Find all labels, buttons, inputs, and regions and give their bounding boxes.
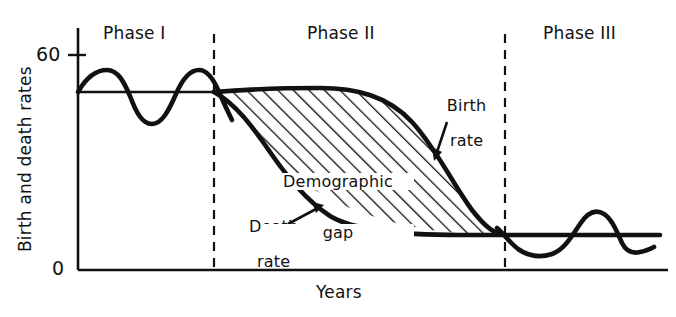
phase-label-2: Phase II <box>307 24 375 42</box>
phase-label-1: Phase I <box>103 24 166 42</box>
figure-canvas: Birth and death rates 60 0 Years Phase I… <box>0 0 676 317</box>
birth-rate-annotation-line2: rate <box>450 131 483 150</box>
birth-rate-annotation: Birth rate <box>413 80 499 166</box>
phase1-oscillation-curve <box>78 70 232 124</box>
x-axis-label: Years <box>316 283 362 301</box>
demographic-gap-label: Demographic gap <box>262 138 414 276</box>
demographic-gap-label-line2: gap <box>262 224 414 241</box>
birth-rate-annotation-line1: Birth <box>447 96 486 115</box>
phase-label-3: Phase III <box>543 24 616 42</box>
y-axis-label: Birth and death rates <box>16 66 34 252</box>
y-tick-label-60: 60 <box>36 44 61 65</box>
y-tick-label-0: 0 <box>52 258 64 279</box>
demographic-gap-label-line1: Demographic <box>262 173 414 190</box>
